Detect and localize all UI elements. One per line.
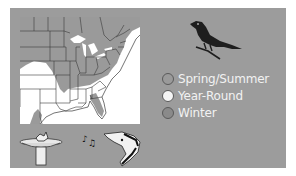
legend: Spring/Summer Year-Round Winter (162, 70, 269, 121)
winter-swatch-icon (162, 107, 174, 119)
spring-summer-swatch-icon (162, 73, 174, 85)
svg-text:♪: ♪ (82, 134, 88, 144)
legend-label: Winter (178, 106, 216, 120)
birdbath-icon (18, 130, 64, 166)
us-east-map-icon (20, 17, 140, 124)
legend-item-winter: Winter (162, 104, 269, 121)
singing-bird-icon: ♪ ♫ (80, 128, 142, 168)
svg-text:♫: ♫ (88, 138, 96, 148)
legend-label: Year-Round (178, 89, 243, 103)
legend-item-year-round: Year-Round (162, 87, 269, 104)
legend-label: Spring/Summer (178, 72, 269, 86)
year-round-swatch-icon (162, 90, 174, 102)
range-map (20, 17, 140, 124)
legend-item-spring-summer: Spring/Summer (162, 70, 269, 87)
bird-silhouette-icon (186, 13, 244, 65)
